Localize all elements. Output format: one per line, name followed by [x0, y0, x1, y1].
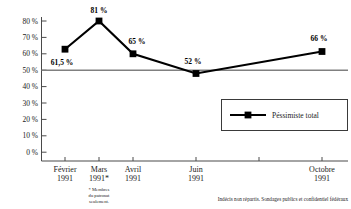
- line-chart: 80 % 70 % 60 % 50 % 40 % 30 % 20 % 10 % …: [0, 0, 351, 209]
- y-tick-label-50: 50 %: [22, 66, 38, 75]
- data-label-mars: 81 %: [91, 6, 108, 15]
- legend-entry-label: Péssimiste total: [272, 111, 319, 120]
- y-tick-label-60: 60 %: [22, 49, 38, 58]
- footnote-line-3: seulement.: [89, 199, 109, 204]
- y-tick-label-30: 30 %: [22, 99, 38, 108]
- x-tick-label-fevrier-line1: Février: [53, 165, 76, 174]
- x-tick-label-mars-line1: Mars: [91, 165, 107, 174]
- x-tick-label-octobre-line1: Octobre: [309, 165, 335, 174]
- y-tick-label-70: 70 %: [22, 33, 38, 42]
- y-tick-label-40: 40 %: [22, 82, 38, 91]
- data-label-juin: 52 %: [185, 57, 202, 66]
- footnote-line-2: du patronat: [89, 193, 111, 198]
- data-point-juin[interactable]: [193, 70, 200, 77]
- data-label-avril: 65 %: [129, 37, 146, 46]
- data-point-fevrier[interactable]: [62, 46, 69, 53]
- legend-marker-sample: [245, 112, 252, 119]
- y-tick-label-80: 80 %: [22, 17, 38, 26]
- footnote-mars: * Membres du patronat seulement.: [89, 187, 111, 204]
- source-note: Indécis non répartis. Sondages publics e…: [218, 196, 349, 202]
- data-point-avril[interactable]: [130, 50, 137, 57]
- y-tick-label-20: 20 %: [22, 115, 38, 124]
- x-tick-label-avril-line2: 1991: [125, 174, 141, 183]
- chart-container: 80 % 70 % 60 % 50 % 40 % 30 % 20 % 10 % …: [0, 0, 351, 209]
- x-tick-label-juin-line2: 1991: [188, 174, 204, 183]
- x-tick-label-avril-line1: Avril: [125, 165, 142, 174]
- data-label-octobre: 66 %: [311, 34, 328, 43]
- legend: Péssimiste total: [222, 100, 348, 131]
- footnote-line-1: * Membres: [89, 187, 110, 192]
- x-tick-label-mars-line2: 1991*: [89, 174, 109, 183]
- x-tick-label-juin-line1: Juin: [189, 165, 202, 174]
- y-tick-label-10: 10 %: [22, 131, 38, 140]
- y-axis-tick-labels: 80 % 70 % 60 % 50 % 40 % 30 % 20 % 10 % …: [22, 17, 38, 157]
- data-label-fevrier: 61,5 %: [51, 58, 74, 67]
- x-tick-label-fevrier-line2: 1991: [57, 174, 73, 183]
- data-point-octobre[interactable]: [319, 48, 326, 55]
- y-tick-label-0: 0 %: [26, 148, 38, 157]
- x-tick-label-octobre-line2: 1991: [314, 174, 330, 183]
- data-point-mars[interactable]: [96, 18, 103, 25]
